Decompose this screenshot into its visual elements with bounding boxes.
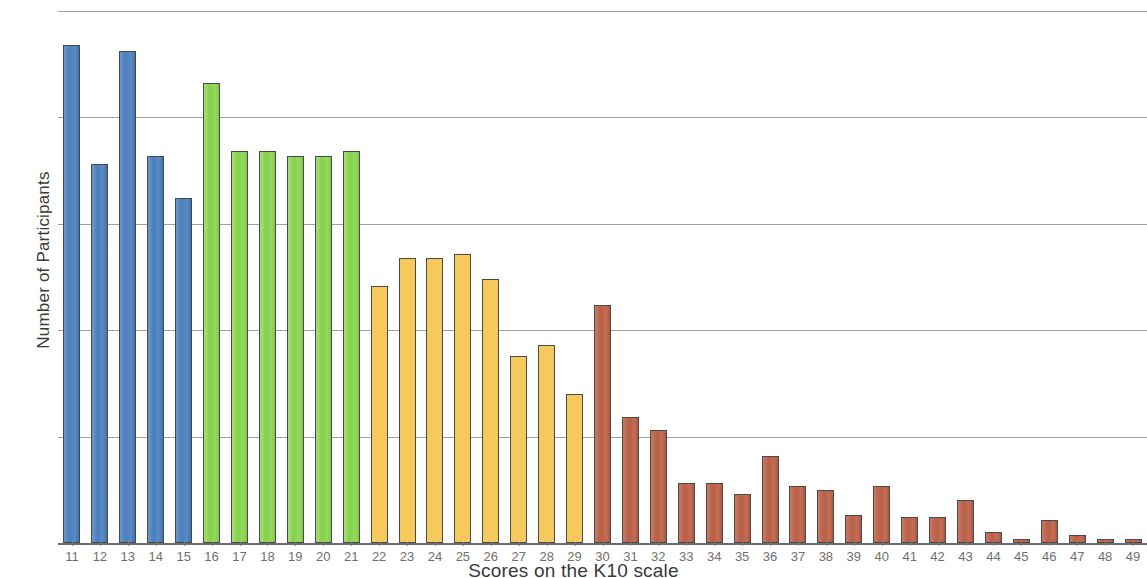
bar: [63, 45, 80, 543]
bar: [175, 198, 192, 543]
bar: [91, 164, 108, 543]
bar: [706, 483, 723, 543]
bar: [929, 517, 946, 543]
bar: [287, 156, 304, 543]
bar-chart: Number of Participants 11121314151617181…: [0, 0, 1147, 578]
bar: [454, 254, 471, 543]
bar: [957, 500, 974, 543]
bar: [203, 83, 220, 543]
bar: [594, 305, 611, 543]
bar: [622, 417, 639, 543]
bar: [231, 151, 248, 543]
bar: [789, 486, 806, 543]
bar: [343, 151, 360, 543]
bar: [510, 356, 527, 543]
bar: [845, 515, 862, 543]
bar: [538, 345, 555, 543]
bar: [817, 490, 834, 543]
bar: [315, 156, 332, 543]
bar: [147, 156, 164, 543]
plot-area: [58, 11, 1147, 545]
bar: [650, 430, 667, 543]
bar: [901, 517, 918, 543]
bar: [371, 286, 388, 543]
x-axis-line: [58, 543, 1147, 545]
bar: [399, 258, 416, 543]
bar: [1041, 520, 1058, 543]
bars-group: [58, 11, 1147, 545]
bar: [426, 258, 443, 543]
bar: [566, 394, 583, 543]
y-axis-title: Number of Participants: [34, 120, 54, 400]
bar: [873, 486, 890, 543]
bar: [734, 494, 751, 543]
x-axis-title: Scores on the K10 scale: [0, 560, 1147, 578]
bar: [259, 151, 276, 543]
bar: [678, 483, 695, 543]
bar: [482, 279, 499, 543]
bar: [762, 456, 779, 543]
bar: [119, 51, 136, 543]
